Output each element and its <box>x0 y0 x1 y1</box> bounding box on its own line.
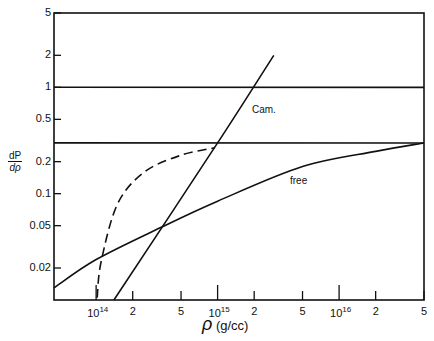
y-tick-label: 0.2 <box>36 155 51 167</box>
x-ticks <box>96 285 424 300</box>
y-ticks <box>54 13 61 268</box>
y-tick-label: 0.1 <box>36 187 51 199</box>
annotation-free: free <box>290 175 307 186</box>
x-tick-label: 1014 <box>87 305 108 319</box>
y-label-numerator: dP <box>8 150 22 162</box>
x-axis-label: ρ (g/cc) <box>202 314 248 335</box>
y-label-denominator: dρ <box>8 162 22 173</box>
x-label-symbol: ρ <box>202 314 212 334</box>
x-tick-label: 5 <box>178 305 184 317</box>
x-tick-label: 2 <box>251 305 257 317</box>
plot-frame <box>54 13 424 300</box>
x-tick-label: 2 <box>373 305 379 317</box>
series-lines <box>54 55 424 300</box>
y-tick-label: 0.5 <box>36 112 51 124</box>
y-tick-label: 1 <box>45 80 51 92</box>
series-free <box>54 143 424 288</box>
x-tick-label: 5 <box>300 305 306 317</box>
x-tick-label: 5 <box>421 305 427 317</box>
y-tick-label: 0.05 <box>30 219 51 231</box>
annotation-cam: Cam. <box>252 104 276 115</box>
y-axis-label: dP dρ <box>8 150 22 173</box>
x-label-unit: (g/cc) <box>216 318 249 333</box>
x-tick-label: 2 <box>130 305 136 317</box>
plot-area <box>0 0 434 341</box>
y-tick-label: 2 <box>45 48 51 60</box>
series-dashed <box>97 148 215 298</box>
x-tick-label: 1016 <box>330 305 351 319</box>
y-tick-label: 5 <box>45 6 51 18</box>
y-tick-label: 0.02 <box>30 261 51 273</box>
